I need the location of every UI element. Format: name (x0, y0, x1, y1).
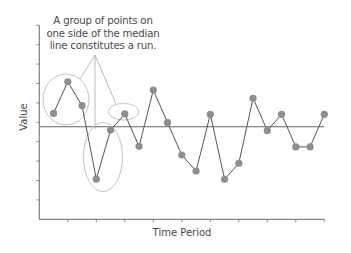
pointer-line-right (95, 55, 116, 104)
data-point (164, 119, 171, 126)
data-point (306, 143, 313, 150)
data-series (50, 78, 328, 183)
data-point (264, 127, 271, 134)
data-point (78, 102, 85, 109)
annotation-line-1: A group of points on (43, 15, 163, 28)
data-point (249, 95, 256, 102)
pointer-line-left (80, 55, 95, 79)
data-point (292, 143, 299, 150)
chart-axes (36, 25, 324, 222)
data-point (207, 111, 214, 118)
run-annotation-text: A group of points on one side of the med… (43, 15, 163, 53)
x-axis-label: Time Period (132, 227, 232, 238)
data-point (50, 110, 57, 117)
annotation-line-3: line constitutes a run. (43, 40, 163, 53)
data-point (150, 86, 157, 93)
data-point (221, 176, 228, 183)
data-point (64, 78, 71, 85)
annotation-pointer-lines (80, 55, 116, 129)
data-point (93, 176, 100, 183)
data-point (235, 160, 242, 167)
run-highlight-ellipses (43, 74, 139, 192)
series-line (54, 82, 325, 180)
data-point (192, 167, 199, 174)
data-point (121, 110, 128, 117)
annotation-line-2: one side of the median (43, 28, 163, 41)
data-point (321, 111, 328, 118)
data-point (107, 126, 114, 133)
data-point (278, 111, 285, 118)
data-point (178, 151, 185, 158)
y-axis-label: Value (18, 97, 29, 137)
data-point (135, 143, 142, 150)
